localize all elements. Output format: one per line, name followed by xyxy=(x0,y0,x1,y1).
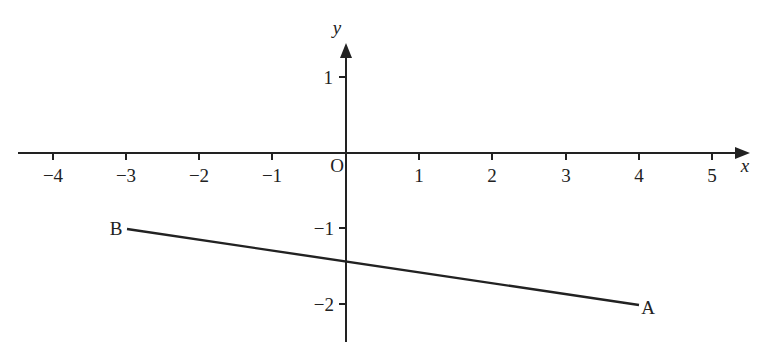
y-tick-label: 1 xyxy=(324,67,334,88)
x-tick-label: −3 xyxy=(116,165,136,186)
x-tick-label: −2 xyxy=(189,165,209,186)
segment-ba xyxy=(127,229,639,305)
point-b-label: B xyxy=(110,218,123,239)
y-axis-arrow-icon xyxy=(340,43,352,58)
x-ticks xyxy=(53,153,712,160)
x-tick-label: −1 xyxy=(262,165,282,186)
x-tick-label: 5 xyxy=(707,165,717,186)
x-tick-label: 2 xyxy=(487,165,497,186)
y-tick-label: −1 xyxy=(314,218,334,239)
coordinate-plane: −4 −3 −2 −1 O 1 2 3 4 5 x y 1 −1 −2 B A xyxy=(0,0,766,364)
x-tick-label: 4 xyxy=(634,165,644,186)
x-tick-label: −4 xyxy=(43,165,64,186)
x-tick-label: 1 xyxy=(414,165,424,186)
y-tick-label: −2 xyxy=(314,294,334,315)
y-axis-label: y xyxy=(331,17,342,38)
x-tick-label: 3 xyxy=(561,165,571,186)
point-a-label: A xyxy=(641,297,655,318)
y-ticks xyxy=(339,77,346,304)
x-axis-label: x xyxy=(740,155,750,176)
origin-label: O xyxy=(330,155,344,176)
